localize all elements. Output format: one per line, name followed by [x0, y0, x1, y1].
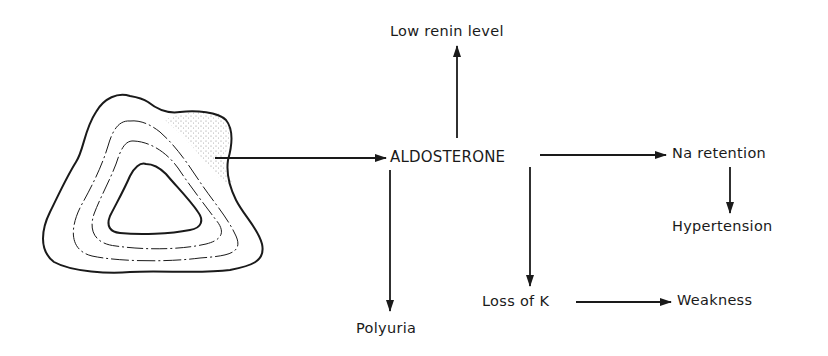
label-weakness: Weakness	[677, 292, 752, 308]
label-aldosterone: ALDOSTERONE	[390, 148, 505, 166]
label-loss-of-k: Loss of K	[482, 293, 549, 309]
adrenal-gland-illustration	[43, 95, 263, 273]
label-hypertension: Hypertension	[672, 218, 773, 234]
gland-outer-outline	[43, 95, 263, 273]
label-na-retention: Na retention	[672, 145, 766, 161]
label-polyuria: Polyuria	[356, 320, 416, 336]
label-low-renin-level: Low renin level	[390, 23, 504, 39]
gland-medulla-outline	[108, 164, 201, 234]
